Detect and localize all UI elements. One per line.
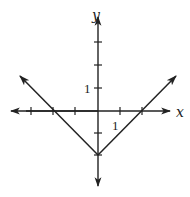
y-axis-label: y <box>91 7 101 23</box>
x-tick-label-1: 1 <box>112 118 119 133</box>
function-right-branch <box>98 76 176 155</box>
x-axis-label: x <box>176 104 184 120</box>
graph: y x 1 1 <box>0 0 190 197</box>
y-tick-label-1: 1 <box>84 81 91 96</box>
